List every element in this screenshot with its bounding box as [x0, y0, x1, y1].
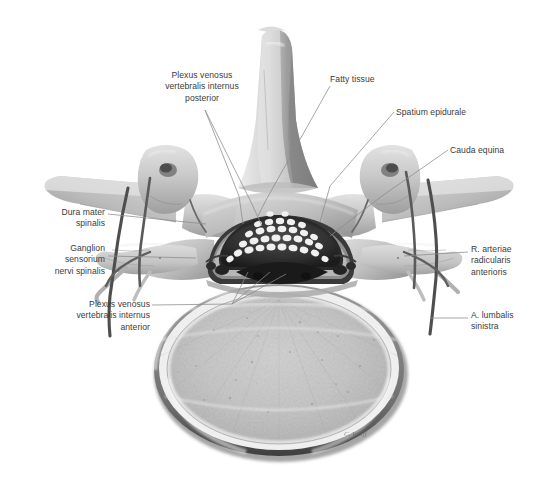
label-a-lumbalis-sinistra: A. lumbalis sinistra: [471, 310, 551, 333]
label-plexus-venosus-posterior: Plexus venosus vertebralis internus post…: [142, 70, 262, 104]
label-spatium-epidurale: Spatium epidurale: [396, 107, 506, 118]
artist-signature: C. Wolff: [344, 430, 367, 438]
label-fatty-tissue: Fatty tissue: [330, 74, 420, 85]
label-plexus-venosus-anterior: Plexus venosus vertebralis internus ante…: [28, 299, 150, 333]
label-ganglion-sensorium-nervi-spinalis: Ganglion sensorium nervi spinalis: [18, 243, 105, 277]
label-r-arteriae-radicularis-anterioris: R. arteriae radicularis anterioris: [471, 244, 551, 278]
label-cauda-equina: Cauda equina: [450, 145, 545, 156]
spinous-process: [238, 26, 318, 194]
label-dura-mater-spinalis: Dura mater spinalis: [20, 207, 105, 230]
illustration-figure: Plexus venosus vertebralis internus post…: [0, 0, 552, 503]
vertebral-body-group: [154, 284, 408, 462]
